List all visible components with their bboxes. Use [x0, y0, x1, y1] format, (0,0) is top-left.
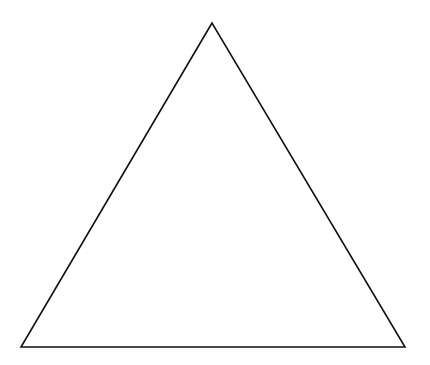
diagram-canvas: [0, 0, 430, 365]
triangle-figure: [0, 0, 430, 365]
triangle-shape: [21, 23, 405, 347]
